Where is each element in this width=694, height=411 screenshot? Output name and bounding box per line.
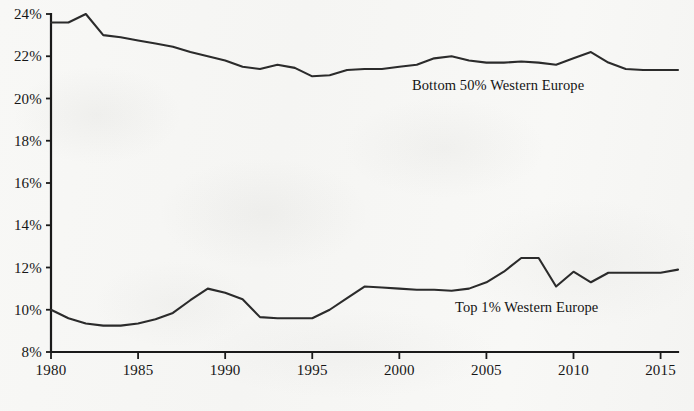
- y-tick-label: 24%: [0, 6, 42, 23]
- series-group: [51, 14, 678, 326]
- x-tick-label: 1995: [297, 362, 328, 379]
- y-tick-label: 18%: [0, 132, 42, 149]
- y-tick-label: 20%: [0, 90, 42, 107]
- y-tick-label: 22%: [0, 48, 42, 65]
- x-tick-label: 2005: [471, 362, 502, 379]
- y-tick-label: 12%: [0, 259, 42, 276]
- series-line-bottom-50: [51, 14, 678, 76]
- x-tick-label: 1985: [123, 362, 154, 379]
- x-tick-label: 2000: [384, 362, 415, 379]
- x-tick-label: 1990: [210, 362, 241, 379]
- y-tick-label: 10%: [0, 301, 42, 318]
- y-tick-label: 14%: [0, 217, 42, 234]
- chart-page: 24%22%20%18%16%14%12%10%8% 1980198519901…: [0, 0, 694, 411]
- x-tick-label: 2015: [645, 362, 676, 379]
- y-tick-label: 8%: [0, 344, 42, 361]
- x-tick-label: 2010: [558, 362, 589, 379]
- line-chart-plot: [0, 0, 694, 411]
- x-tick-label: 1980: [36, 362, 67, 379]
- y-tick-label: 16%: [0, 175, 42, 192]
- series-label-bottom-50: Bottom 50% Western Europe: [412, 77, 584, 94]
- series-label-top-1: Top 1% Western Europe: [455, 299, 598, 316]
